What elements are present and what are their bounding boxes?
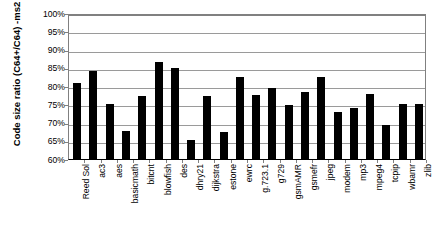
bar — [399, 104, 407, 159]
bar — [285, 105, 293, 159]
bar — [236, 77, 244, 159]
bar — [220, 132, 228, 159]
x-axis-category-label: jpeg — [324, 164, 336, 234]
bar — [138, 96, 146, 160]
bar — [89, 71, 97, 159]
x-axis-category-label: estone — [227, 164, 239, 234]
y-axis-tick-label: 85% — [34, 64, 65, 73]
x-axis-tick-mark — [166, 160, 167, 163]
x-axis-tick-mark — [263, 160, 264, 163]
x-axis-category-label: basicmath — [129, 164, 141, 234]
y-axis-tick-label: 65% — [34, 137, 65, 146]
bar — [155, 62, 163, 159]
x-axis-category-label: Reed Sol — [80, 164, 92, 234]
bar-chart: Code size ratio (C64+/C64) -ms2 100%95%9… — [0, 0, 442, 238]
bar — [73, 83, 81, 159]
y-axis-tick-label: 80% — [34, 83, 65, 92]
bar — [203, 96, 211, 159]
x-axis-category-label: ac3 — [96, 164, 108, 234]
x-axis-tick-mark — [377, 160, 378, 163]
x-axis-category-label: g.723.1 — [259, 164, 271, 234]
y-axis-tick-label: 90% — [34, 46, 65, 55]
x-axis-category-label: g729 — [275, 164, 287, 234]
x-axis-tick-mark — [345, 160, 346, 163]
x-axis-tick-mark — [393, 160, 394, 163]
x-axis-category-label: gsmAMR — [292, 164, 304, 234]
bar — [187, 140, 195, 159]
bar — [382, 125, 390, 159]
y-axis-tick-mark — [64, 142, 68, 143]
y-axis-title: Code size ratio (C64+/C64) -ms2 — [10, 0, 24, 154]
bar — [317, 77, 325, 159]
y-axis-tick-mark — [64, 105, 68, 106]
y-axis-tick-label: 75% — [34, 101, 65, 110]
y-axis-tick-label: 95% — [34, 28, 65, 37]
bars-group — [69, 15, 425, 159]
x-axis-category-label: tcpip — [389, 164, 401, 234]
x-axis-tick-mark — [101, 160, 102, 163]
y-axis-tick-label: 60% — [34, 156, 65, 165]
bar — [415, 104, 423, 159]
bar — [334, 112, 342, 159]
y-axis-tick-mark — [64, 124, 68, 125]
x-axis-tick-mark — [247, 160, 248, 163]
bar — [122, 131, 130, 159]
x-axis-category-label: aes — [113, 164, 125, 234]
bar — [171, 68, 179, 159]
x-axis-tick-mark — [214, 160, 215, 163]
y-axis-tick-mark — [64, 87, 68, 88]
x-axis-category-label: zlib — [422, 164, 434, 234]
x-axis-tick-mark — [410, 160, 411, 163]
x-axis-category-label: dhry21 — [194, 164, 206, 234]
x-axis-category-label: blowfish — [162, 164, 174, 234]
x-axis-tick-mark — [149, 160, 150, 163]
x-axis-tick-mark — [231, 160, 232, 163]
y-axis-tick-labels: 100%95%90%85%80%75%70%65%60% — [34, 14, 65, 160]
bar — [268, 88, 276, 159]
x-axis-tick-mark — [296, 160, 297, 163]
x-axis-category-label: modem — [341, 164, 353, 234]
x-axis-tick-mark — [312, 160, 313, 163]
bar — [350, 108, 358, 159]
x-axis-category-label: ewrc — [243, 164, 255, 234]
y-axis-tick-mark — [64, 69, 68, 70]
x-axis-tick-mark — [117, 160, 118, 163]
x-axis-category-label: dijkstra — [210, 164, 222, 234]
y-axis-tick-label: 100% — [34, 10, 65, 19]
x-axis-tick-mark — [361, 160, 362, 163]
x-axis-tick-mark — [426, 160, 427, 163]
x-axis-tick-mark — [328, 160, 329, 163]
x-axis-category-label: bitcnt — [145, 164, 157, 234]
x-axis-category-label: gsmefr — [308, 164, 320, 234]
x-axis-tick-mark — [280, 160, 281, 163]
x-axis-category-label: mpeg4 — [373, 164, 385, 234]
x-axis-tick-mark — [198, 160, 199, 163]
x-axis-tick-mark — [133, 160, 134, 163]
bar — [252, 95, 260, 159]
bar — [366, 94, 374, 159]
x-axis-category-labels: Reed Solac3aesbasicmathbitcntblowfishdes… — [68, 164, 426, 236]
x-axis-tick-mark — [84, 160, 85, 163]
y-axis-tick-label: 70% — [34, 119, 65, 128]
x-axis-category-label: des — [178, 164, 190, 234]
y-axis-tick-mark — [64, 14, 68, 15]
x-axis-category-label: mp3 — [357, 164, 369, 234]
bar — [301, 92, 309, 159]
x-axis-tick-mark — [182, 160, 183, 163]
y-axis-tick-mark — [64, 32, 68, 33]
x-axis-category-label: wbamr — [406, 164, 418, 234]
plot-area — [68, 14, 426, 160]
y-axis-tick-mark — [64, 51, 68, 52]
bar — [106, 104, 114, 159]
